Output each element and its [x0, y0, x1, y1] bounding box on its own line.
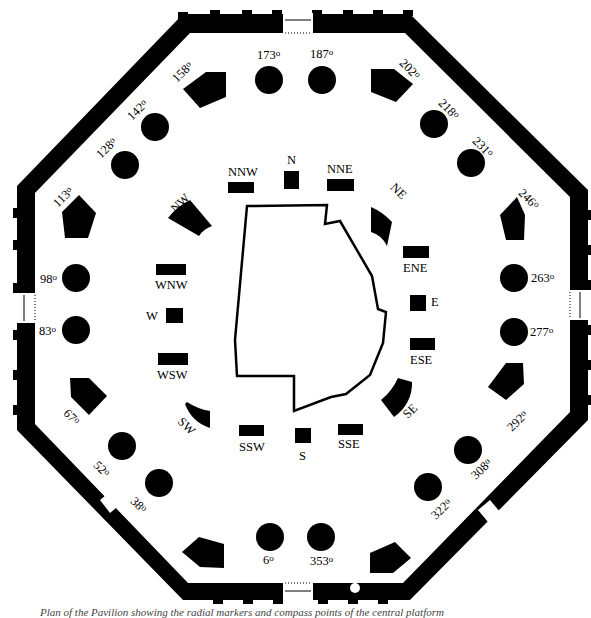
- figure-caption: Plan of the Pavilion showing the radial …: [40, 606, 444, 618]
- marker-label-6: 6o: [263, 554, 274, 567]
- compass-label-wsw: WSW: [157, 369, 188, 382]
- outer-pentagon-markers: [62, 69, 525, 573]
- compass-label-ssw: SSW: [239, 441, 265, 454]
- compass-label-ene: ENE: [403, 262, 427, 275]
- compass-label-s: S: [299, 450, 306, 463]
- compass-label-ese: ESE: [410, 354, 432, 367]
- marker-label-353: 353o: [310, 555, 333, 568]
- outer-circle-markers: [62, 66, 528, 551]
- marker-label-187: 187o: [310, 48, 333, 61]
- central-platform-outline: [235, 205, 386, 411]
- octagon-wall: [17, 14, 588, 600]
- marker-label-83: 83o: [39, 325, 56, 338]
- compass-label-n: N: [287, 154, 296, 167]
- wall-buttresses: [13, 10, 591, 604]
- compass-label-e: E: [431, 296, 439, 309]
- marker-label-277: 277o: [530, 326, 553, 339]
- compass-label-nnw: NNW: [228, 166, 258, 179]
- marker-label-98: 98o: [40, 273, 57, 286]
- marker-label-263: 263o: [531, 272, 554, 285]
- marker-label-22: 22o: [197, 548, 214, 561]
- compass-label-wnw: WNW: [155, 279, 188, 292]
- compass-label-w: W: [146, 310, 158, 323]
- marker-label-338: 338o: [371, 552, 394, 565]
- compass-label-nne: NNE: [327, 163, 353, 176]
- marker-label-173: 173o: [257, 49, 280, 62]
- compass-label-sse: SSE: [338, 438, 360, 451]
- inner-compass-markers: [156, 171, 435, 443]
